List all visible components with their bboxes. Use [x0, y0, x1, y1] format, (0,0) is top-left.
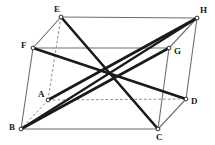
space-diagonals	[21, 17, 197, 129]
edge-CD	[158, 99, 186, 129]
vertex-dot-D	[184, 97, 188, 101]
vertex-label-A: A	[38, 90, 45, 99]
vertex-label-E: E	[54, 5, 60, 14]
vertex-label-G: G	[174, 47, 181, 56]
edge-GC	[158, 48, 169, 129]
vertex-label-H: H	[200, 6, 207, 15]
vertex-dot-H	[195, 16, 199, 20]
vertex-label-C: C	[156, 133, 163, 142]
vertex-dot-G	[167, 46, 171, 50]
vertex-dot-A	[46, 98, 50, 102]
diagonal-BH	[21, 18, 197, 129]
geometry-figure: A B C D E F G H	[0, 0, 215, 145]
vertex-dot-E	[59, 15, 63, 19]
edge-FB	[21, 48, 33, 129]
edge-EF	[33, 17, 61, 48]
figure-canvas	[0, 0, 215, 145]
vertex-dot-F	[31, 46, 35, 50]
vertex-dot-B	[19, 127, 23, 131]
vertex-dot-C	[156, 127, 160, 131]
vertex-label-B: B	[9, 123, 15, 132]
edge-HD	[186, 18, 197, 99]
edge-EH	[61, 17, 197, 18]
vertex-label-D: D	[191, 97, 198, 106]
vertex-label-F: F	[21, 41, 27, 50]
